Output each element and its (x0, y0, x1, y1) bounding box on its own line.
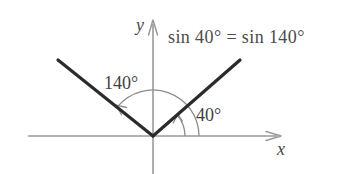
angle-label-40: 40° (196, 106, 221, 124)
y-axis-label: y (136, 16, 144, 34)
equation-label: sin 40° = sin 140° (168, 28, 305, 46)
angle-arc-140 (116, 90, 199, 136)
ray-140-degrees (58, 60, 153, 136)
trigonometry-figure: sin 40° = sin 140° 140° 40° y x (0, 0, 345, 174)
x-axis-label: x (277, 140, 285, 158)
angle-label-140: 140° (104, 74, 138, 92)
y-axis (149, 20, 158, 174)
